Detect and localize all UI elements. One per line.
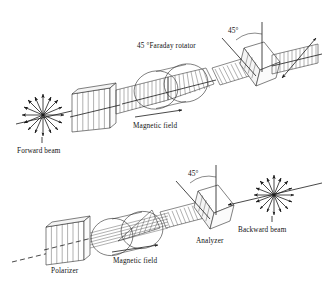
analyzer-label: Analyzer: [196, 237, 224, 245]
polarizer-block-backward: [44, 216, 92, 265]
polarizer-block-forward: [70, 83, 120, 132]
rotator-label: 45 °Faraday rotator: [137, 42, 196, 50]
angle-label-forward: 45°: [228, 26, 238, 35]
polarizer-label: Polarizer: [51, 267, 79, 275]
backward-beam-label: Backward beam: [238, 226, 287, 234]
magnetic-field-label-backward: Magnetic field: [113, 257, 157, 265]
optical-isolator-diagram: 45 °Faraday rotator 45° Magnetic field F…: [0, 0, 323, 286]
magnetic-field-label-forward: Magnetic field: [133, 122, 177, 130]
angle-label-backward: 45°: [188, 169, 198, 178]
forward-beam-label: Forward beam: [17, 147, 61, 155]
figure-root: 45 °Faraday rotator 45° Magnetic field F…: [0, 0, 323, 286]
